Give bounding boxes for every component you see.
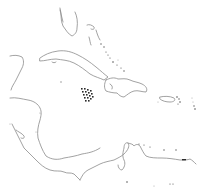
highlighted-region-marker [81,88,94,102]
central-america-coastline [10,98,101,180]
lesser-antilles-islands [192,98,196,110]
yucatan-coastline [10,55,24,90]
hispaniola-outline [105,78,147,97]
map-canvas [0,0,210,196]
cuba-outline [40,51,108,83]
puerto-rico-outline [158,96,181,104]
florida-coastline [60,8,77,36]
caribbean-outline-map [0,0,210,196]
